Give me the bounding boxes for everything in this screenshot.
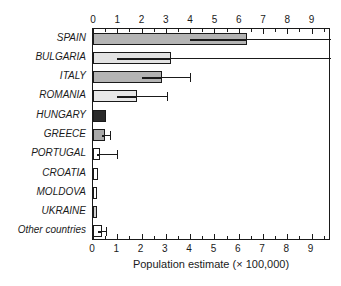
axis-tick-major <box>263 234 264 239</box>
category-label: Other countries <box>18 224 86 235</box>
axis-tick-minor <box>129 236 130 239</box>
error-bar-cap <box>190 73 191 82</box>
category-label: PORTUGAL <box>31 147 86 158</box>
error-bar-line-inner <box>142 77 163 79</box>
error-bar-line-inner <box>98 231 102 233</box>
axis-tick-major <box>117 29 118 34</box>
top-tick-label: 1 <box>107 15 127 25</box>
bottom-tick-label: 5 <box>203 244 223 254</box>
axis-tick-major <box>214 29 215 34</box>
category-axis-labels: SPAINBULGARIAITALYROMANIAHUNGARYGREECEPO… <box>0 28 89 240</box>
bottom-tick-label: 1 <box>106 244 126 254</box>
error-bar-line-inner <box>117 96 136 98</box>
axis-tick-minor <box>154 236 155 239</box>
error-bar-line-inner <box>190 39 247 41</box>
bottom-tick-label: 2 <box>131 244 151 254</box>
axis-tick-major <box>142 234 143 239</box>
error-bar-line-inner <box>102 135 106 137</box>
top-tick-label: 0 <box>83 15 103 25</box>
axis-tick-minor <box>251 236 252 239</box>
category-label: SPAIN <box>57 32 86 43</box>
axis-tick-major <box>312 29 313 34</box>
bottom-tick-label: 7 <box>252 244 272 254</box>
axis-tick-minor <box>178 236 179 239</box>
top-tick-label: 5 <box>204 15 224 25</box>
category-label: ITALY <box>60 70 86 81</box>
top-tick-label: 8 <box>277 15 297 25</box>
axis-tick-minor <box>299 236 300 239</box>
axis-tick-major <box>239 234 240 239</box>
axis-tick-major <box>142 29 143 34</box>
category-label: UKRAINE <box>42 205 86 216</box>
bottom-tick-label: 3 <box>155 244 175 254</box>
category-label: CROATIA <box>42 167 86 178</box>
axis-tick-major <box>93 234 94 239</box>
bottom-axis-tick-labels: 0123456789 <box>92 240 330 256</box>
axis-tick-minor <box>299 29 300 32</box>
error-bar-line-inner <box>117 58 170 60</box>
error-bar-cap <box>117 150 118 159</box>
axis-tick-minor <box>324 236 325 239</box>
axis-tick-minor <box>275 236 276 239</box>
axis-tick-major <box>166 234 167 239</box>
category-label: GREECE <box>44 128 86 139</box>
category-label: MOLDOVA <box>37 186 86 197</box>
axis-tick-minor <box>227 29 228 32</box>
error-bar-cap <box>167 92 168 101</box>
axis-tick-major <box>287 29 288 34</box>
bar <box>93 187 97 199</box>
bottom-tick-label: 0 <box>82 244 102 254</box>
top-tick-label: 2 <box>132 15 152 25</box>
axis-tick-major <box>117 234 118 239</box>
plot-area: 0123456789 <box>92 28 330 240</box>
error-bar-line-inner <box>97 154 101 156</box>
bar <box>93 168 98 180</box>
axis-tick-minor <box>251 29 252 32</box>
population-estimate-bar-chart: SPAINBULGARIAITALYROMANIAHUNGARYGREECEPO… <box>0 0 341 286</box>
axis-tick-major <box>312 234 313 239</box>
axis-tick-major <box>166 29 167 34</box>
axis-tick-major <box>263 29 264 34</box>
top-tick-label: 9 <box>302 15 322 25</box>
axis-tick-major <box>190 29 191 34</box>
axis-tick-minor <box>324 29 325 32</box>
top-tick-label: 4 <box>180 15 200 25</box>
axis-tick-minor <box>202 236 203 239</box>
axis-tick-minor <box>129 29 130 32</box>
axis-tick-minor <box>275 29 276 32</box>
top-tick-label: 7 <box>253 15 273 25</box>
axis-tick-minor <box>227 236 228 239</box>
axis-tick-major <box>93 29 94 34</box>
axis-tick-major <box>214 234 215 239</box>
x-axis-title: Population estimate (× 100,000) <box>92 258 330 271</box>
category-label: BULGARIA <box>35 51 86 62</box>
axis-tick-minor <box>154 29 155 32</box>
bar <box>93 206 97 218</box>
axis-tick-major <box>239 29 240 34</box>
axis-tick-minor <box>178 29 179 32</box>
axis-tick-minor <box>202 29 203 32</box>
bottom-tick-label: 8 <box>276 244 296 254</box>
axis-tick-major <box>287 234 288 239</box>
bar <box>93 110 106 122</box>
category-label: ROMANIA <box>39 89 86 100</box>
axis-tick-major <box>190 234 191 239</box>
bottom-tick-label: 6 <box>228 244 248 254</box>
error-bar-cap <box>106 227 107 236</box>
top-tick-label: 3 <box>156 15 176 25</box>
axis-tick-minor <box>105 29 106 32</box>
error-bar-cap <box>110 131 111 140</box>
bottom-tick-label: 9 <box>301 244 321 254</box>
category-label: HUNGARY <box>36 109 86 120</box>
bottom-tick-label: 4 <box>179 244 199 254</box>
axis-tick-minor <box>105 236 106 239</box>
top-tick-label: 6 <box>229 15 249 25</box>
